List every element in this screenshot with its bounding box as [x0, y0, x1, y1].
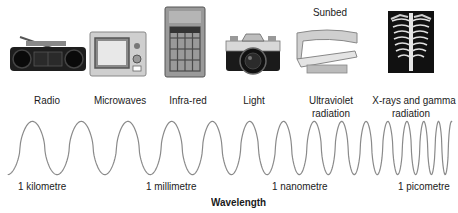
- label-microwaves: Microwaves: [86, 94, 155, 107]
- microwave-oven-icon: [89, 30, 147, 78]
- label-xrays-line1: X-rays and gamma: [372, 94, 449, 107]
- camera-icon: [224, 31, 282, 77]
- scale-label-picometre: 1 picometre: [398, 180, 450, 193]
- scale-label-kilometre: 1 kilometre: [18, 180, 66, 193]
- heater-icon: [163, 5, 207, 79]
- scale-label-nanometre: 1 nanometre: [272, 180, 328, 193]
- radio-icon: [8, 33, 88, 73]
- xray-chest-icon: [388, 11, 434, 73]
- scale-label-millimetre: 1 millimetre: [146, 180, 197, 193]
- axis-title-wavelength: Wavelength: [211, 196, 266, 209]
- label-radio: Radio: [26, 94, 69, 107]
- label-infra-red: Infra-red: [164, 94, 212, 107]
- label-light: Light: [237, 94, 271, 107]
- label-ultraviolet-line1: Ultraviolet: [301, 94, 361, 107]
- wavelength-wave: [0, 114, 458, 184]
- sunbed-caption: Sunbed: [304, 6, 356, 19]
- sunbed-icon: [293, 29, 359, 77]
